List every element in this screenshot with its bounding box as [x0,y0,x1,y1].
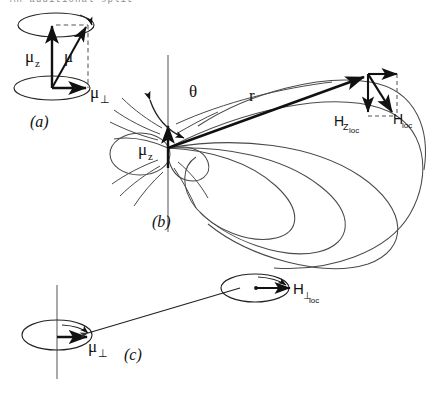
panel-c-mu-perp-label: μ ⊥ [88,337,108,359]
svg-text:μ: μ [64,47,73,66]
panel-c-connector-arrow [88,288,240,333]
svg-text:μ: μ [25,47,34,66]
svg-text:loc: loc [402,121,412,130]
panel-b-mu-z-label: μ z [138,140,153,162]
panel-c-tag: (c) [124,346,142,364]
svg-text:z: z [35,57,40,69]
panel-c-right-precession-arrow [258,277,286,285]
svg-text:⊥: ⊥ [100,93,110,105]
field-line-right-4 [168,102,423,269]
theta-label: θ [189,82,197,101]
mu-z-label: μ z [25,47,40,69]
svg-text:loc: loc [349,126,359,135]
physics-figure: μ z μ μ ⊥ (a) [0,0,430,393]
svg-text:z: z [148,150,153,162]
panel-a: μ z μ μ ⊥ (a) [14,13,110,131]
panel-b-tag: (b) [152,213,171,231]
svg-text:μ: μ [88,337,97,356]
field-line-right-3 [168,143,398,269]
r-label: r [249,86,255,105]
field-line-right-2 [168,148,345,254]
h-z-loc-label: H Z loc [334,113,359,135]
field-ray-ul-2 [114,110,160,134]
field-ray-ll-3 [134,172,163,206]
svg-text:μ: μ [90,83,99,102]
panel-c: μ ⊥ H ⊥ loc (c) [22,274,319,379]
svg-text:⊥: ⊥ [98,347,108,359]
field-ray-ul-3 [110,122,158,140]
mu-label: μ [64,47,73,66]
figure-canvas: μ z μ μ ⊥ (a) [0,0,430,393]
h-loc-vector [368,74,392,112]
panel-b: μ z θ r H Z loc H loc (b) [110,55,425,269]
field-ray-lr-1 [178,162,208,198]
h-perp-loc-label: H ⊥ loc [293,280,319,305]
panel-c-left-precession-arrow [62,325,88,333]
mu-perp-label: μ ⊥ [90,83,110,105]
field-ray-ll-1 [112,160,158,184]
svg-text:loc: loc [309,296,319,305]
svg-text:μ: μ [138,140,147,159]
h-loc-label: H loc [393,111,412,130]
panel-a-tag: (a) [30,113,49,131]
